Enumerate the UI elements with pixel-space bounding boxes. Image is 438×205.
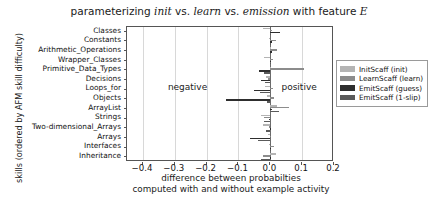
x-tick-label: −0.1 [227, 163, 248, 173]
title-part-3: vs. [221, 5, 243, 17]
legend-swatch [340, 66, 355, 72]
legend: InitScaff (init)LearnScaff (learn)EmitSc… [336, 60, 428, 107]
bar [258, 140, 271, 141]
y-tick-label: Two-dimensional_Arrays [32, 123, 121, 131]
annotation-positive: positive [281, 82, 316, 92]
bar [267, 101, 270, 102]
title-italic-init: init [154, 5, 172, 17]
gridline-x [207, 27, 208, 160]
bar [270, 153, 276, 154]
title-part-4: with feature [290, 5, 360, 17]
legend-label: EmitScaff (1-slip) [359, 93, 421, 102]
bar [226, 99, 271, 100]
legend-item[interactable]: LearnScaff (learn) [340, 74, 423, 83]
bar [270, 111, 278, 112]
bar [270, 107, 289, 108]
legend-swatch [340, 76, 355, 82]
legend-label: EmitScaff (guess) [359, 84, 422, 93]
gridline-x [175, 27, 176, 160]
y-tick-label: Wrapper_Classes [58, 56, 121, 64]
y-tick-label: Interfaces [84, 142, 121, 150]
gridline-x [302, 27, 303, 160]
y-tick-label: Objects [93, 94, 121, 102]
figure: parameterizing init vs. learn vs. emissi… [0, 0, 438, 205]
bar [270, 128, 271, 129]
x-tick-label: 0.2 [326, 163, 340, 173]
y-tick-label: Arrays [97, 133, 121, 141]
y-tick-label: Inheritance [79, 152, 121, 160]
title-italic-learn: learn [193, 5, 221, 17]
legend-label: LearnScaff (learn) [359, 74, 423, 83]
bar [265, 82, 270, 83]
y-tick-labels: ClassesConstantsArithmetic_OperationsWra… [0, 26, 124, 161]
x-tick-label: 0.0 [262, 163, 276, 173]
legend-label: InitScaff (init) [359, 65, 408, 74]
title-part-2: vs. [172, 5, 194, 17]
bar [260, 92, 271, 93]
y-tick-label: Decisions [86, 75, 121, 83]
x-tick-label: −0.3 [163, 163, 184, 173]
bar [263, 28, 270, 29]
bar [264, 121, 270, 122]
bar [270, 68, 303, 69]
chart-title: parameterizing init vs. learn vs. emissi… [0, 5, 438, 18]
y-tick-label: Strings [95, 113, 121, 121]
title-part-1: parameterizing [71, 5, 154, 17]
bar [270, 97, 274, 98]
plot-area: negative positive [126, 26, 333, 161]
bar [270, 32, 280, 33]
legend-swatch [340, 85, 355, 91]
x-axis-label-line1: difference between probabilties [66, 173, 396, 184]
legend-item[interactable]: EmitScaff (1-slip) [340, 93, 423, 102]
y-tick-label: Loops_for [86, 84, 121, 92]
bar [266, 130, 271, 131]
bar [270, 157, 271, 158]
x-axis-label-line2: computed with and without example activi… [66, 184, 396, 195]
legend-swatch [340, 95, 355, 101]
bar [270, 53, 271, 54]
bar [270, 34, 271, 35]
bar [261, 159, 270, 160]
y-tick-label: Classes [93, 27, 121, 35]
x-axis-label: difference between probabilties computed… [66, 173, 396, 195]
y-tick-label: Constants [84, 36, 121, 44]
y-tick-label: Arithmetic_Operations [38, 46, 121, 54]
gridline-x [238, 27, 239, 160]
bar [263, 155, 271, 156]
x-tick-label: −0.4 [131, 163, 152, 173]
bar [270, 88, 273, 89]
y-tick-label: Primitive_Data_Types [43, 65, 121, 73]
annotation-negative: negative [168, 82, 207, 92]
bar [270, 43, 271, 44]
bar [264, 72, 270, 73]
bar [270, 149, 271, 150]
x-tick-label: 0.1 [294, 163, 308, 173]
x-tick-label: −0.2 [195, 163, 216, 173]
bar [270, 63, 271, 64]
gridline-x [143, 27, 144, 160]
title-math-e: E [360, 5, 368, 17]
title-italic-emission: emission [243, 5, 290, 17]
y-tick-label: ArrayList [88, 104, 121, 112]
legend-item[interactable]: InitScaff (init) [340, 65, 423, 74]
legend-item[interactable]: EmitScaff (guess) [340, 84, 423, 93]
